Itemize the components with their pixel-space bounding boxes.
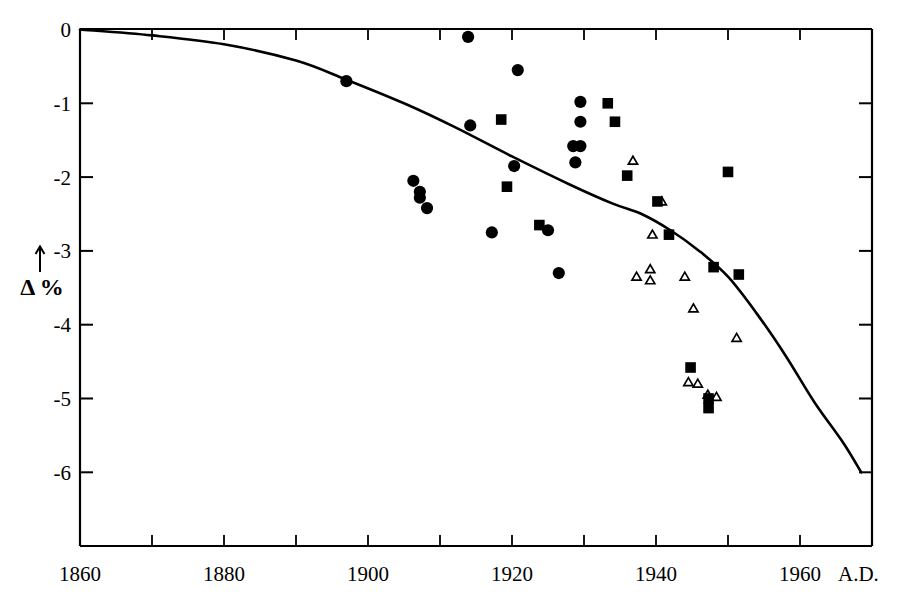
data-point-circle [464, 119, 476, 131]
data-point-triangle [689, 304, 698, 312]
data-point-circle [340, 75, 352, 87]
data-point-circle [508, 160, 520, 172]
data-point-square [622, 170, 633, 181]
data-point-triangle [693, 379, 702, 387]
tick-labels-layer: 1860188019001920194019600-1-2-3-4-5-6 [54, 18, 822, 586]
x-axis-tick-label: 1940 [635, 562, 677, 586]
data-point-triangle [684, 378, 693, 386]
tick-marks-layer [80, 29, 872, 546]
data-point-circle [421, 202, 433, 214]
data-point-triangle [646, 276, 655, 284]
x-axis-tick-label: 1900 [347, 562, 389, 586]
figure-container: 1860188019001920194019600-1-2-3-4-5-6 Δ … [0, 0, 901, 598]
data-point-circle [486, 226, 498, 238]
y-axis-label: Δ % [20, 274, 64, 300]
y-axis-tick-label: -6 [54, 461, 72, 485]
trend-curve [80, 30, 861, 473]
data-point-circle [414, 192, 426, 204]
y-axis-tick-label: -4 [54, 313, 72, 337]
data-point-circle [462, 31, 474, 43]
y-axis-tick-label: -1 [54, 92, 72, 116]
data-point-square [496, 114, 507, 125]
y-axis-tick-label: -3 [54, 239, 72, 263]
data-point-circle [574, 96, 586, 108]
data-point-triangle [628, 156, 637, 164]
x-axis-tick-label: 1920 [491, 562, 533, 586]
scatter-plot-svg: 1860188019001920194019600-1-2-3-4-5-6 Δ … [0, 0, 901, 598]
data-point-triangle [632, 272, 641, 280]
data-point-square [708, 262, 719, 273]
series-filled-circles [340, 31, 586, 279]
data-point-circle [569, 156, 581, 168]
data-point-square [734, 269, 745, 280]
data-point-circle [553, 267, 565, 279]
data-point-triangle [648, 230, 657, 238]
series-open-triangles [628, 156, 741, 400]
y-axis-tick-label: -2 [54, 166, 72, 190]
data-point-circle [407, 175, 419, 187]
data-point-square [685, 362, 696, 373]
data-point-square [610, 116, 621, 127]
data-point-square [534, 220, 545, 231]
data-point-square [602, 98, 613, 109]
y-axis-tick-label: -5 [54, 387, 72, 411]
plot-frame [80, 29, 872, 546]
data-point-circle [574, 140, 586, 152]
x-axis-suffix-label: A.D. [838, 562, 879, 586]
x-axis-tick-label: 1880 [203, 562, 245, 586]
data-point-triangle [646, 265, 655, 273]
data-point-square [723, 167, 734, 178]
data-point-circle [512, 64, 524, 76]
data-point-square [703, 403, 714, 414]
data-point-square [502, 181, 513, 192]
data-point-triangle [680, 272, 689, 280]
x-axis-tick-label: 1960 [779, 562, 821, 586]
data-point-circle [574, 116, 586, 128]
x-axis-tick-label: 1860 [59, 562, 101, 586]
data-markers-layer [340, 31, 744, 414]
y-axis-tick-label: 0 [61, 18, 72, 42]
data-point-triangle [732, 333, 741, 341]
data-point-square [664, 229, 675, 240]
